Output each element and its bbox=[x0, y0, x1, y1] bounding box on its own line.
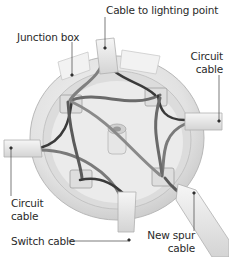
label-cable-to-lighting-point: Cable to lighting point bbox=[106, 4, 218, 17]
label-junction-box: Junction box bbox=[17, 31, 79, 44]
label-circuit-cable-left: Circuit cable bbox=[11, 197, 43, 223]
label-circuit-cable-left-line2: cable bbox=[11, 210, 43, 223]
label-circuit-cable-left-line1: Circuit bbox=[11, 197, 43, 210]
label-switch-cable: Switch cable bbox=[11, 235, 75, 248]
label-new-spur-cable: New spur cable bbox=[147, 229, 195, 255]
label-new-spur-cable-line1: New spur bbox=[147, 229, 195, 242]
label-new-spur-cable-line2: cable bbox=[147, 242, 195, 255]
label-circuit-cable-right-line1: Circuit bbox=[191, 50, 223, 63]
label-circuit-cable-right-line2: cable bbox=[191, 63, 223, 76]
label-circuit-cable-right: Circuit cable bbox=[191, 50, 223, 76]
